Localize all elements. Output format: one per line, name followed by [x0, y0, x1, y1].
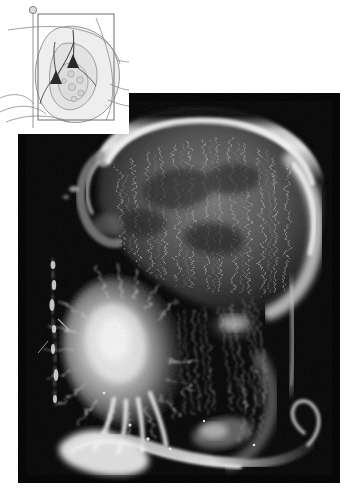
marker-pin-head	[29, 6, 36, 13]
fluorescence-micrograph	[18, 93, 340, 483]
schematic-inset	[0, 0, 129, 134]
figure-root	[0, 0, 354, 497]
schematic-inset-drawing	[0, 0, 129, 134]
micrograph-render	[18, 93, 340, 483]
